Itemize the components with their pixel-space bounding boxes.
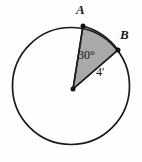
circle-outline	[13, 28, 130, 145]
point-a-label: A	[76, 3, 85, 16]
point-b-label: B	[120, 28, 129, 41]
point-b-dot	[116, 48, 121, 53]
circle-sector-drawing	[0, 0, 142, 162]
geometry-figure: A B 30° 4'	[0, 0, 142, 162]
angle-measure-label: 30°	[78, 49, 95, 61]
center-point-dot	[71, 87, 76, 92]
radius-measure-label: 4'	[96, 66, 104, 78]
point-a-dot	[81, 24, 86, 29]
